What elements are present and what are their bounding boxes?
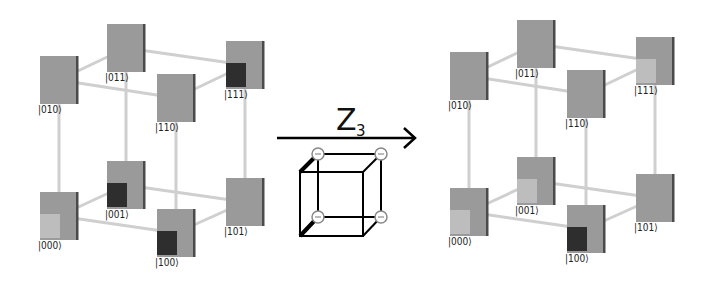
state-panel-011: |011⟩ [515, 20, 556, 80]
cube-gate-icon [300, 148, 387, 236]
panel-face [40, 56, 78, 104]
panel-edge [193, 74, 196, 122]
light-marker [40, 214, 60, 238]
dark-marker [107, 183, 127, 207]
phase-node-icon [312, 148, 324, 160]
light-marker [450, 210, 470, 234]
state-panel-110: |110⟩ [155, 74, 196, 134]
panel-edge [603, 205, 606, 253]
state-label: |000⟩ [38, 240, 62, 252]
state-panel-001: |001⟩ [105, 161, 146, 221]
panel-face [517, 20, 555, 68]
phase-node-icon [375, 211, 387, 223]
panel-edge [143, 24, 146, 72]
state-label: |110⟩ [155, 122, 179, 134]
state-label: |011⟩ [105, 72, 129, 84]
diagram-canvas: |011⟩|111⟩|010⟩|110⟩|001⟩|101⟩|000⟩|100⟩… [0, 0, 707, 285]
state-panel-100: |100⟩ [565, 205, 606, 265]
state-label: |010⟩ [38, 104, 62, 116]
state-panel-101: |101⟩ [634, 174, 675, 234]
panel-face [226, 178, 264, 226]
panel-face [636, 174, 674, 222]
state-panel-010: |010⟩ [38, 56, 79, 116]
panel-edge [553, 20, 556, 68]
state-panel-000: |000⟩ [448, 188, 489, 248]
state-panel-111: |111⟩ [224, 41, 265, 101]
panel-edge [262, 178, 265, 226]
panel-edge [262, 41, 265, 89]
state-label: |111⟩ [634, 85, 658, 97]
panel-edge [486, 52, 489, 100]
state-panel-100: |100⟩ [155, 209, 196, 269]
panel-edge [672, 37, 675, 85]
state-label: |101⟩ [634, 222, 658, 234]
panel-edge [603, 70, 606, 118]
cube-edges [469, 44, 655, 229]
panel-edge [76, 56, 79, 104]
light-marker [636, 59, 656, 83]
z3-operator: Z 3 [277, 102, 415, 148]
panel-face [157, 74, 195, 122]
panel-edge [553, 157, 556, 205]
state-label: |100⟩ [155, 257, 179, 269]
light-marker [517, 179, 537, 203]
state-label: |110⟩ [565, 118, 589, 130]
state-label: |101⟩ [224, 226, 248, 238]
operator-label: Z [336, 102, 357, 137]
panel-edge [76, 192, 79, 240]
state-label: |100⟩ [565, 253, 589, 265]
cube-edges [59, 48, 245, 233]
state-panel-011: |011⟩ [105, 24, 146, 84]
state-label: |010⟩ [448, 100, 472, 112]
dark-marker [157, 231, 177, 255]
phase-node-icon [312, 211, 324, 223]
panel-edge [143, 161, 146, 209]
state-label: |111⟩ [224, 89, 248, 101]
state-panel-001: |001⟩ [515, 157, 556, 217]
panel-edge [672, 174, 675, 222]
panel-edge [486, 188, 489, 236]
phase-node-icon [375, 148, 387, 160]
panel-face [107, 24, 145, 72]
dark-marker [567, 227, 587, 251]
panel-face [450, 52, 488, 100]
state-label: |001⟩ [515, 205, 539, 217]
state-panel-000: |000⟩ [38, 192, 79, 252]
state-label: |001⟩ [105, 209, 129, 221]
right-cube: |011⟩|111⟩|010⟩|110⟩|001⟩|101⟩|000⟩|100⟩ [448, 20, 675, 265]
left-cube: |011⟩|111⟩|010⟩|110⟩|001⟩|101⟩|000⟩|100⟩ [38, 24, 265, 269]
state-panel-110: |110⟩ [565, 70, 606, 130]
state-label: |000⟩ [448, 236, 472, 248]
state-panel-111: |111⟩ [634, 37, 675, 97]
panel-face [567, 70, 605, 118]
state-panel-010: |010⟩ [448, 52, 489, 112]
state-panel-101: |101⟩ [224, 178, 265, 238]
dark-marker [226, 63, 246, 87]
state-label: |011⟩ [515, 68, 539, 80]
panel-edge [193, 209, 196, 257]
